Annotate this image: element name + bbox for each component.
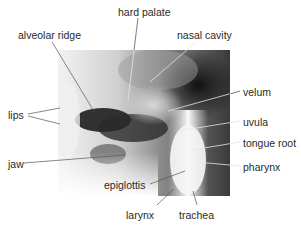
vocal-tract-diagram: hard palate alveolar ridge nasal cavity … xyxy=(0,0,301,228)
label-trachea: trachea xyxy=(179,209,214,221)
label-hard-palate: hard palate xyxy=(118,6,171,18)
label-tongue-root: tongue root xyxy=(243,137,296,149)
label-nasal-cavity: nasal cavity xyxy=(177,29,232,41)
label-velum: velum xyxy=(243,86,271,98)
xray-render xyxy=(58,50,230,196)
label-epiglottis: epiglottis xyxy=(104,179,145,191)
xray-image xyxy=(58,50,230,196)
label-jaw: jaw xyxy=(8,158,24,170)
label-pharynx: pharynx xyxy=(243,161,280,173)
label-alveolar-ridge: alveolar ridge xyxy=(18,29,81,41)
label-larynx: larynx xyxy=(126,209,154,221)
label-uvula: uvula xyxy=(243,116,268,128)
leader-lips-lower xyxy=(28,116,60,124)
label-lips: lips xyxy=(8,109,24,121)
leader-lips-upper xyxy=(28,108,60,114)
